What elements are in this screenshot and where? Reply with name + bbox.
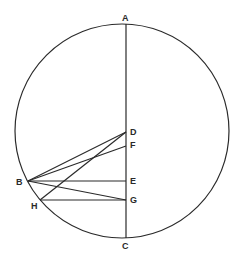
- point-label-b: B: [16, 177, 23, 187]
- segment-bd: [28, 132, 126, 181]
- point-label-c: C: [122, 241, 129, 251]
- point-label-h: H: [31, 201, 38, 211]
- point-label-f: F: [130, 140, 136, 150]
- point-label-g: G: [130, 195, 137, 205]
- geometry-diagram: ACDFEGBH: [0, 0, 241, 262]
- point-label-a: A: [122, 13, 129, 23]
- circle: [15, 24, 229, 238]
- point-label-d: D: [130, 127, 137, 137]
- segment-hd: [40, 132, 126, 200]
- point-label-e: E: [130, 176, 136, 186]
- segment-bf: [28, 146, 126, 181]
